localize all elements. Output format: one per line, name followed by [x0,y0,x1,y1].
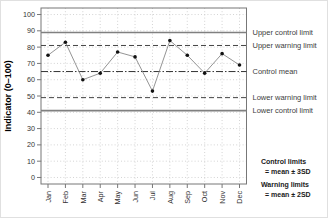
data-point [46,53,50,57]
data-point [133,55,137,59]
data-series-line [48,41,240,92]
x-tick-label: Mar [79,190,88,203]
y-tick-label: 80 [27,43,35,52]
reference-line-label-upper-warning: Upper warning limit [253,41,318,50]
x-tick-label: May [113,191,122,205]
y-tick-label: 30 [27,124,35,133]
data-point [98,71,102,75]
y-tick-label: 0 [31,173,35,182]
control-chart: Upper control limitUpper warning limitCo… [0,0,328,218]
y-tick-label: 100 [23,10,35,19]
annotation-warning-limits-note-line: = mean ± 2SD [265,191,311,198]
data-point [168,39,172,43]
y-tick-label: 70 [27,59,35,68]
data-point [220,52,224,56]
annotation-warning-limits-note-line: Warning limits [261,181,309,189]
reference-line-label-lower-control: Lower control limit [253,106,314,115]
reference-line-label-control-mean: Control mean [253,67,298,76]
y-tick-label: 50 [27,92,35,101]
data-point [185,53,189,57]
y-tick-label: 10 [27,157,35,166]
reference-line-label-upper-control: Upper control limit [253,28,314,37]
x-tick-label: Aug [166,191,175,204]
x-tick-label: Oct [200,191,209,202]
reference-line-label-lower-warning: Lower warning limit [253,93,318,102]
x-tick-label: Sep [183,191,192,204]
x-tick-label: Jan [44,191,53,203]
data-point [64,40,68,44]
data-point [116,50,120,54]
y-tick-label: 90 [27,26,35,35]
y-tick-label: 60 [27,75,35,84]
data-point [151,89,155,93]
data-point [203,71,207,75]
control-chart-screenshot: Upper control limitUpper warning limitCo… [0,0,328,218]
annotation-control-limits-note-line: Control limits [261,158,306,165]
data-point [81,78,85,82]
x-tick-label: Apr [96,190,105,202]
x-tick-label: Jul [148,191,157,201]
x-tick-label: Dec [235,191,244,204]
x-tick-label: Feb [61,191,70,203]
y-axis-title: Indicator (0–100) [3,60,13,132]
y-tick-label: 40 [27,108,35,117]
y-tick-label: 20 [27,140,35,149]
data-point [238,63,242,67]
annotation-control-limits-note-line: = mean ± 3SD [265,168,311,175]
x-tick-label: Nov [218,191,227,204]
x-tick-label: Jun [131,191,140,203]
